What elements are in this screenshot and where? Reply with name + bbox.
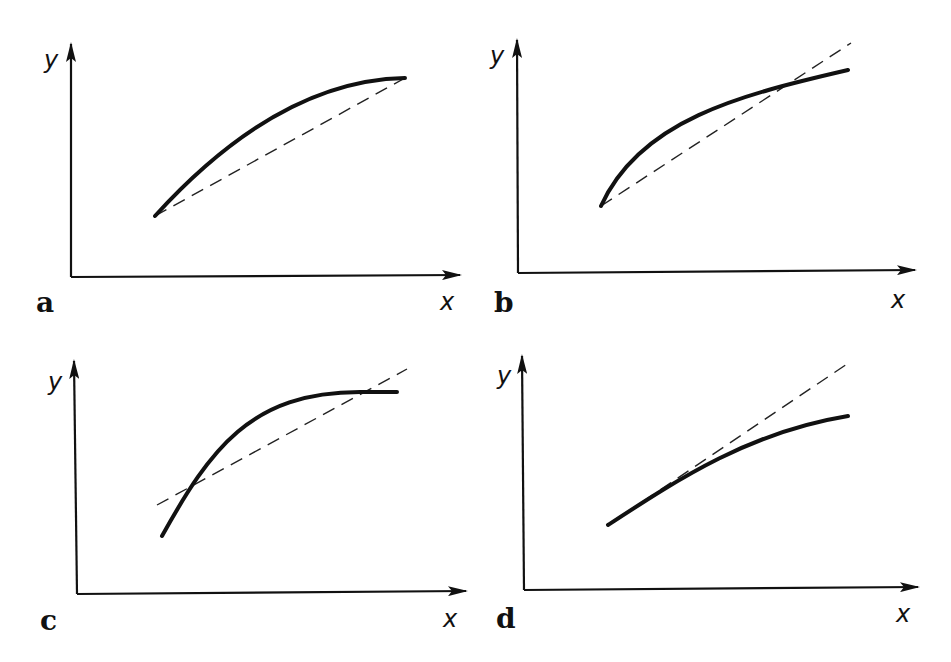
x-axis-label: x xyxy=(890,286,906,314)
figure-canvas: y x a y x b y x c y x d xyxy=(0,0,951,662)
curve xyxy=(608,416,848,525)
y-axis xyxy=(74,361,77,594)
panel-a: y x a xyxy=(36,44,460,319)
y-axis-label: y xyxy=(47,368,63,396)
x-axis xyxy=(71,275,460,277)
panel-b: y x b xyxy=(489,40,915,319)
y-axis xyxy=(517,40,518,273)
dashed-line xyxy=(601,43,851,206)
y-axis xyxy=(522,356,524,590)
panel-label: b xyxy=(494,286,514,319)
curve xyxy=(162,392,397,536)
panel-label: a xyxy=(36,286,54,319)
x-axis xyxy=(518,270,915,273)
x-axis xyxy=(77,591,466,594)
y-axis-label: y xyxy=(43,46,59,74)
panel-d: y x d xyxy=(496,356,918,635)
y-axis-label: y xyxy=(496,362,512,390)
y-axis-label: y xyxy=(489,42,505,70)
panel-label: d xyxy=(496,602,516,635)
x-axis xyxy=(524,587,918,590)
x-axis-label: x xyxy=(895,600,911,628)
x-axis-label: x xyxy=(439,288,455,316)
curve xyxy=(601,70,848,206)
panel-c: y x c xyxy=(40,361,466,637)
x-axis-label: x xyxy=(442,605,458,633)
dashed-line xyxy=(155,78,405,216)
panel-label: c xyxy=(40,604,57,637)
